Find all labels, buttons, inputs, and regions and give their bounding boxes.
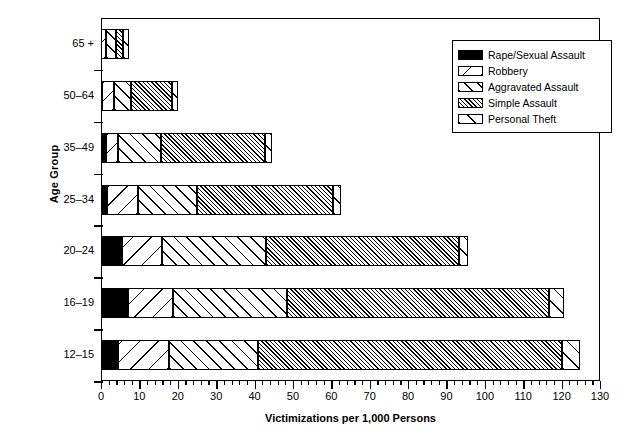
sparse-slash-icon <box>458 114 483 124</box>
bar-segment-aggravated-assault <box>162 236 266 266</box>
x-tick-minor <box>109 381 110 385</box>
x-tick-minor <box>278 381 279 385</box>
x-tick-minor <box>585 381 586 385</box>
y-tick-label-4: 25–34 <box>24 194 94 205</box>
legend-item[interactable]: Simple Assault <box>458 95 605 110</box>
y-tick-mark <box>94 70 103 72</box>
legend-item[interactable]: Rape/Sexual Assault <box>458 47 605 62</box>
x-tick-minor <box>362 381 363 385</box>
x-tick-major <box>523 381 524 389</box>
y-tick-label-5: 20–24 <box>24 245 94 256</box>
bar-segment-simple-assault <box>131 81 172 111</box>
x-tick-minor <box>162 381 163 385</box>
x-tick-label-100: 100 <box>465 390 505 402</box>
legend-item[interactable]: Robbery <box>458 63 605 78</box>
x-tick-minor <box>393 381 394 385</box>
x-tick-minor <box>577 381 578 385</box>
x-tick-minor <box>232 381 233 385</box>
bar-segment-personal-theft <box>172 81 178 111</box>
x-tick-major <box>562 381 563 389</box>
x-tick-minor <box>423 381 424 385</box>
bar-segment-aggravated-assault <box>114 81 131 111</box>
x-tick-minor <box>270 381 271 385</box>
y-tick-label-1: 65 + <box>24 38 94 49</box>
x-tick-minor <box>416 381 417 385</box>
y-tick-mark <box>94 122 103 124</box>
x-tick-minor <box>347 381 348 385</box>
bar-segment-robbery <box>118 340 169 370</box>
bar-segment-personal-theft <box>123 29 128 59</box>
legend-label: Robbery <box>488 65 528 77</box>
x-tick-minor <box>469 381 470 385</box>
bar-segment-aggravated-assault <box>118 133 161 163</box>
legend: Rape/Sexual AssaultRobberyAggravated Ass… <box>452 40 612 133</box>
x-tick-minor <box>531 381 532 385</box>
x-tick-label-20: 20 <box>158 390 198 402</box>
x-tick-minor <box>462 381 463 385</box>
bar-segment-simple-assault <box>161 133 265 163</box>
x-tick-minor <box>208 381 209 385</box>
x-tick-minor <box>431 381 432 385</box>
y-tick-label-7: 12–15 <box>24 349 94 360</box>
y-tick-mark <box>94 174 103 176</box>
x-tick-minor <box>354 381 355 385</box>
x-tick-minor <box>262 381 263 385</box>
y-tick-mark <box>94 381 103 383</box>
x-tick-major <box>178 381 179 389</box>
x-tick-minor <box>170 381 171 385</box>
bar-segment-rape-sexual-assault <box>101 340 118 370</box>
x-tick-label-60: 60 <box>311 390 351 402</box>
bar-segment-rape-sexual-assault <box>101 236 122 266</box>
x-tick-major <box>255 381 256 389</box>
y-tick-mark <box>94 277 103 279</box>
x-tick-minor <box>193 381 194 385</box>
legend-label: Personal Theft <box>488 113 556 125</box>
x-tick-minor <box>400 381 401 385</box>
legend-label: Simple Assault <box>488 97 557 109</box>
x-tick-major <box>485 381 486 389</box>
x-tick-minor <box>201 381 202 385</box>
fine-hatch-icon <box>458 98 483 108</box>
solid-black-icon <box>458 50 483 60</box>
bar-segment-aggravated-assault <box>169 340 258 370</box>
x-tick-label-110: 110 <box>503 390 543 402</box>
bar-segment-personal-theft <box>459 236 467 266</box>
forwardslash-icon <box>458 82 483 92</box>
bar-segment-simple-assault <box>258 340 561 370</box>
legend-label: Rape/Sexual Assault <box>488 49 585 61</box>
x-tick-minor <box>116 381 117 385</box>
x-tick-minor <box>493 381 494 385</box>
x-tick-minor <box>147 381 148 385</box>
x-tick-minor <box>546 381 547 385</box>
x-tick-minor <box>155 381 156 385</box>
x-tick-label-70: 70 <box>350 390 390 402</box>
bar-segment-robbery <box>107 185 138 215</box>
legend-label: Aggravated Assault <box>488 81 578 93</box>
bar-segment-personal-theft <box>265 133 272 163</box>
y-tick-label-2: 50–64 <box>24 90 94 101</box>
x-tick-minor <box>301 381 302 385</box>
bar-segment-robbery <box>106 133 118 163</box>
x-tick-minor <box>439 381 440 385</box>
y-tick-label-3: 35–49 <box>24 142 94 153</box>
x-tick-minor <box>454 381 455 385</box>
x-tick-minor <box>285 381 286 385</box>
y-tick-label-6: 16–19 <box>24 297 94 308</box>
x-tick-minor <box>239 381 240 385</box>
bar-segment-simple-assault <box>287 288 549 318</box>
legend-item[interactable]: Aggravated Assault <box>458 79 605 94</box>
x-tick-minor <box>592 381 593 385</box>
x-tick-major <box>408 381 409 389</box>
x-tick-minor <box>516 381 517 385</box>
x-tick-minor <box>539 381 540 385</box>
x-tick-label-130: 130 <box>580 390 620 402</box>
x-tick-label-30: 30 <box>196 390 236 402</box>
bar-segment-aggravated-assault <box>138 185 197 215</box>
bar-segment-simple-assault <box>266 236 459 266</box>
x-tick-major <box>600 381 601 389</box>
legend-item[interactable]: Personal Theft <box>458 111 605 126</box>
bar-segment-aggravated-assault <box>173 288 287 318</box>
x-tick-minor <box>500 381 501 385</box>
x-tick-minor <box>339 381 340 385</box>
bar-segment-simple-assault <box>197 185 333 215</box>
